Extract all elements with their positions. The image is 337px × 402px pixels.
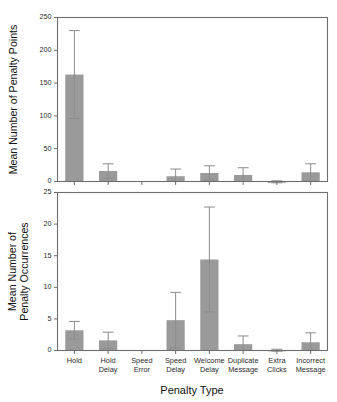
chart-svg: 050100150200250 Mean Number of Penalty P… <box>0 0 337 402</box>
x-tick-label-line2: Clicks <box>267 365 287 374</box>
x-tick-label-line1: Incorrect <box>296 356 325 365</box>
x-tick-label-line1: Speed <box>165 356 186 365</box>
y-tick-label: 15 <box>44 251 52 260</box>
y-tick-label: 100 <box>40 111 52 120</box>
y-tick-label: 150 <box>40 78 52 87</box>
x-tick-label-line2: Delay <box>200 365 219 374</box>
penalty-bar-chart-figure: 050100150200250 Mean Number of Penalty P… <box>0 0 337 402</box>
y-tick-label: 5 <box>48 314 52 323</box>
y-tick-label: 25 <box>44 187 52 196</box>
x-tick-label-line2: Message <box>296 365 326 374</box>
y-tick-label: 250 <box>40 12 52 21</box>
x-tick-label-line1: Extra <box>268 356 286 365</box>
x-tick-label-line1: Duplicate <box>228 356 259 365</box>
x-tick-label-line2: Delay <box>166 365 185 374</box>
x-tick-label-line1: Hold <box>67 356 82 365</box>
x-tick-label-line1: Speed <box>131 356 152 365</box>
x-tick-label-line1: Hold <box>101 356 116 365</box>
x-tick-label-line1: Welcome <box>194 356 225 365</box>
top-panel-y-axis-label: Mean Number of Penalty Points <box>7 25 19 175</box>
y-tick-label: 50 <box>44 144 52 153</box>
y-tick-label: 20 <box>44 219 52 228</box>
x-axis-label: Penalty Type <box>160 384 223 396</box>
y-tick-label: 200 <box>40 45 52 54</box>
bottom-panel-y-axis-label-line2: Penalty Occurrences <box>18 222 30 320</box>
y-tick-label: 10 <box>44 282 52 291</box>
x-tick-label-line2: Error <box>134 365 151 374</box>
y-tick-label: 0 <box>48 176 52 185</box>
x-tick-label-line2: Delay <box>99 365 118 374</box>
x-tick-label-line2: Message <box>228 365 258 374</box>
y-tick-label: 0 <box>48 345 52 354</box>
bottom-panel-y-axis-label-line1: Mean Number of <box>6 232 18 311</box>
